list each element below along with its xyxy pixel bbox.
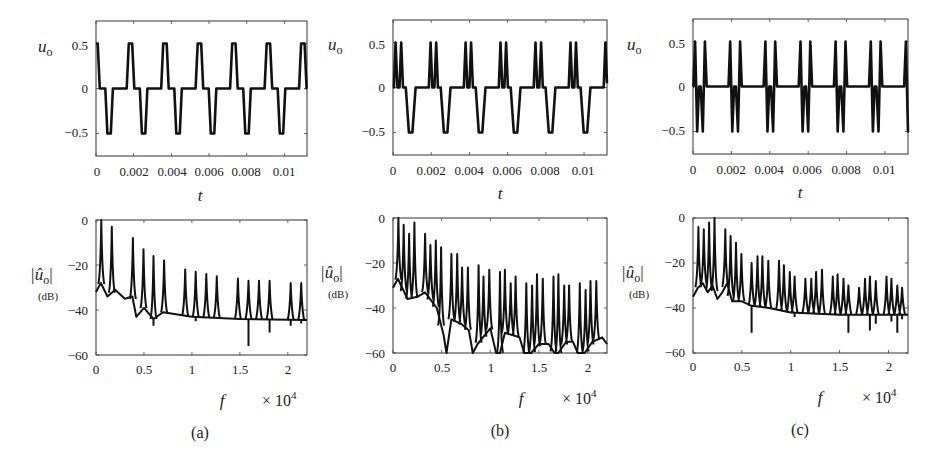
svg-text:0.01: 0.01 — [273, 164, 296, 179]
waveform-line — [693, 19, 908, 154]
svg-text:0.002: 0.002 — [119, 164, 148, 179]
spectrum-plot-unit: (dB) — [38, 290, 59, 303]
spectrum-line — [393, 218, 607, 353]
panel-caption: (a) — [191, 424, 209, 442]
svg-text:0.01: 0.01 — [873, 162, 896, 177]
svg-text:1.5: 1.5 — [531, 360, 547, 375]
ytick-label: 0 — [679, 79, 686, 94]
panel-caption: (c) — [791, 421, 809, 439]
waveform-line — [96, 21, 307, 156]
ytick-label: 0 — [379, 211, 386, 226]
svg-text:0.5: 0.5 — [136, 362, 152, 377]
spectrum-plot-c: |ûo| (dB) 0 −20 −40 −60 0 0.5 1 1.5 2 f … — [621, 210, 908, 407]
svg-text:0.006: 0.006 — [792, 162, 822, 177]
svg-text:0: 0 — [94, 164, 101, 179]
spectrum-plot-xlabel: f — [519, 389, 526, 408]
svg-text:0.5: 0.5 — [434, 360, 450, 375]
svg-text:2: 2 — [285, 362, 292, 377]
time-plot-ylabel: uo — [627, 35, 642, 57]
spectrum-plot-ylabel: |ûo| — [320, 263, 343, 285]
svg-text:0: 0 — [93, 362, 100, 377]
spectrum-plot-unit: (dB) — [629, 288, 650, 301]
svg-text:0.008: 0.008 — [231, 164, 260, 179]
ytick-label: 0 — [379, 80, 386, 95]
svg-text:0.002: 0.002 — [716, 162, 745, 177]
svg-text:0: 0 — [690, 359, 697, 374]
svg-text:0.002: 0.002 — [416, 163, 445, 178]
ytick-label: −0.5 — [64, 125, 88, 140]
spectrum-plot-b: |ûo| (dB) 0 −20 −40 −60 0 0.5 1 1.5 2 f … — [320, 211, 607, 408]
time-plot-xlabel: t — [798, 183, 804, 202]
time-plot-ylabel: uo — [328, 35, 343, 57]
spectrum-line — [96, 220, 307, 355]
x-multiplier: × 104 — [862, 386, 897, 406]
xtick-labels: 0 0.002 0.004 0.006 0.008 0.01 — [690, 162, 896, 177]
ytick-label: 0 — [679, 210, 686, 225]
svg-text:0.006: 0.006 — [194, 164, 224, 179]
svg-text:0: 0 — [390, 163, 397, 178]
spectrum-line — [693, 218, 908, 353]
ytick-label: −20 — [68, 258, 88, 273]
svg-text:1: 1 — [488, 360, 495, 375]
waveform-line — [393, 20, 607, 155]
ytick-label: −40 — [665, 300, 685, 315]
svg-text:0.006: 0.006 — [492, 163, 522, 178]
ytick-label: −60 — [68, 348, 88, 363]
figure: uo 0.5 0 −0.5 0 0.002 0.004 0.006 0.008 … — [0, 0, 942, 453]
time-plot-b: uo 0.5 0 −0.5 0 0.002 0.004 0.006 0.008 … — [328, 20, 607, 203]
svg-text:2: 2 — [585, 360, 592, 375]
svg-text:0.5: 0.5 — [734, 359, 750, 374]
xtick-labels: 0 0.002 0.004 0.006 0.008 0.01 — [390, 163, 595, 178]
xtick-labels: 0 0.5 1 1.5 2 — [93, 362, 292, 377]
svg-text:0.004: 0.004 — [454, 163, 484, 178]
panel-caption: (b) — [491, 422, 510, 440]
xtick-labels: 0 0.5 1 1.5 2 — [690, 359, 893, 374]
ytick-label: −0.5 — [361, 124, 385, 139]
ytick-label: −60 — [365, 346, 385, 361]
ytick-label: −20 — [365, 256, 385, 271]
xtick-labels: 0 0.5 1 1.5 2 — [390, 360, 592, 375]
svg-text:0.01: 0.01 — [572, 163, 595, 178]
ytick-label: −60 — [665, 345, 685, 360]
svg-text:0.008: 0.008 — [831, 162, 860, 177]
x-multiplier: × 104 — [262, 389, 297, 409]
spectrum-plot-xlabel: f — [220, 391, 227, 410]
panel-c: uo 0.5 0 −0.5 0 0.002 0.004 0.006 0.008 … — [621, 19, 908, 439]
time-plot-xlabel: t — [198, 186, 204, 205]
svg-text:0.004: 0.004 — [157, 164, 187, 179]
ytick-label: 0.5 — [669, 36, 685, 51]
spectrum-plot-ylabel: |ûo| — [30, 265, 53, 287]
spectrum-plot-unit: (dB) — [328, 288, 349, 301]
svg-text:0: 0 — [690, 162, 697, 177]
ytick-label: −40 — [68, 303, 88, 318]
spectrum-plot-ylabel: |ûo| — [621, 263, 644, 285]
xtick-labels: 0 0.002 0.004 0.006 0.008 0.01 — [94, 164, 296, 179]
svg-text:2: 2 — [886, 359, 893, 374]
plot-frame — [96, 220, 307, 355]
x-multiplier: × 104 — [562, 387, 597, 407]
ytick-label: −40 — [365, 301, 385, 316]
svg-text:0.008: 0.008 — [530, 163, 559, 178]
ytick-label: 0 — [82, 81, 89, 96]
svg-text:1.5: 1.5 — [232, 362, 248, 377]
ytick-label: 0 — [82, 213, 89, 228]
svg-text:1.5: 1.5 — [832, 359, 848, 374]
time-plot-ylabel: uo — [38, 37, 53, 59]
panel-a: uo 0.5 0 −0.5 0 0.002 0.004 0.006 0.008 … — [30, 21, 307, 442]
time-plot-a: uo 0.5 0 −0.5 0 0.002 0.004 0.006 0.008 … — [38, 21, 307, 205]
panel-b: uo 0.5 0 −0.5 0 0.002 0.004 0.006 0.008 … — [320, 20, 607, 440]
svg-text:1: 1 — [189, 362, 196, 377]
ytick-label: 0.5 — [369, 37, 385, 52]
spectrum-plot-a: |ûo| (dB) 0 −20 −40 −60 0 0.5 1 1.5 2 f … — [30, 213, 307, 410]
svg-text:0.004: 0.004 — [754, 162, 784, 177]
svg-text:1: 1 — [788, 359, 795, 374]
svg-text:0: 0 — [390, 360, 397, 375]
time-plot-xlabel: t — [498, 184, 504, 203]
ytick-label: −20 — [665, 255, 685, 270]
ytick-label: 0.5 — [72, 38, 88, 53]
ytick-label: −0.5 — [661, 123, 685, 138]
spectrum-plot-xlabel: f — [818, 388, 825, 407]
time-plot-c: uo 0.5 0 −0.5 0 0.002 0.004 0.006 0.008 … — [627, 19, 908, 202]
